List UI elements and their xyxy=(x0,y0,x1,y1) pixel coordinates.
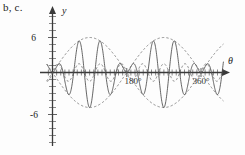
y-tick-label-minus6: -6 xyxy=(30,110,38,120)
y-axis-label: y xyxy=(61,5,67,16)
y-tick-label-6: 6 xyxy=(31,33,36,43)
x-axis-label: θ xyxy=(228,55,233,66)
x-tick-label-360: 360° xyxy=(192,76,210,86)
plot-canvas: y θ 6 -6 180° 360° xyxy=(0,0,245,155)
figure-root: b, c. xyxy=(0,0,245,155)
y-axis-arrow xyxy=(49,6,56,14)
x-tick-label-180: 180° xyxy=(124,76,142,86)
